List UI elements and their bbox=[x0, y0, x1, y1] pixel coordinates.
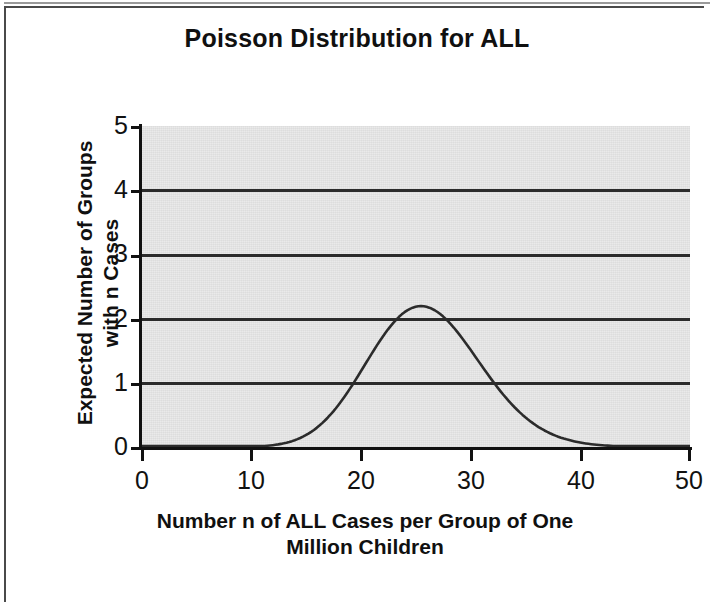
y-tick-label-0: 0 bbox=[98, 434, 128, 459]
x-axis-title-line1: Number n of ALL Cases per Group of One bbox=[60, 508, 670, 534]
x-tick-mark-20 bbox=[360, 450, 363, 461]
x-tick-label-10: 10 bbox=[221, 468, 281, 493]
y-tick-label-5: 5 bbox=[98, 113, 128, 138]
x-tick-label-30: 30 bbox=[441, 468, 501, 493]
x-tick-label-0: 0 bbox=[112, 468, 172, 493]
y-tick-label-4: 4 bbox=[98, 177, 128, 202]
x-tick-label-20: 20 bbox=[331, 468, 391, 493]
y-tick-label-1: 1 bbox=[98, 370, 128, 395]
x-axis-line bbox=[139, 447, 692, 450]
figure-frame-left bbox=[4, 6, 6, 602]
y-axis-line bbox=[139, 124, 142, 450]
x-tick-mark-10 bbox=[250, 450, 253, 461]
poisson-curve bbox=[141, 126, 690, 447]
x-axis-title-line2: Million Children bbox=[60, 534, 670, 560]
plot-area bbox=[141, 126, 690, 447]
y-tick-label-2: 2 bbox=[98, 306, 128, 331]
x-axis-title: Number n of ALL Cases per Group of One M… bbox=[60, 508, 670, 561]
x-tick-mark-0 bbox=[141, 450, 144, 461]
y-tick-label-3: 3 bbox=[98, 241, 128, 266]
x-tick-mark-50 bbox=[688, 450, 691, 461]
figure-container: Poisson Distribution for ALL Expected Nu… bbox=[0, 0, 714, 611]
x-tick-mark-40 bbox=[580, 450, 583, 461]
x-tick-mark-30 bbox=[470, 450, 473, 461]
x-tick-label-50: 50 bbox=[659, 468, 714, 493]
x-tick-label-40: 40 bbox=[551, 468, 611, 493]
